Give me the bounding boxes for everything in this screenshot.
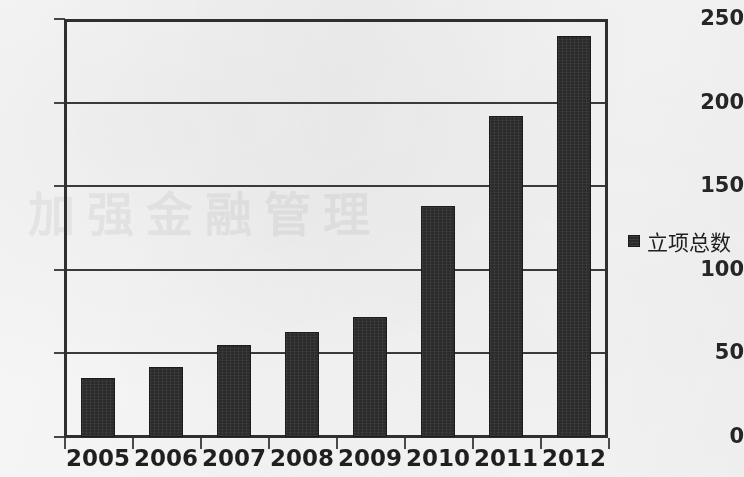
legend: 立项总数 — [628, 226, 731, 256]
x-axis-tick-label: 2007 — [198, 445, 270, 471]
bar — [557, 36, 591, 437]
y-axis-tick-label: 100 — [692, 257, 744, 281]
bar — [217, 345, 251, 437]
bar — [285, 332, 319, 437]
x-axis-tick-label: 2008 — [266, 445, 338, 471]
y-axis-tick-label: 200 — [692, 90, 744, 114]
y-axis-tick-label: 250 — [692, 6, 744, 30]
chart-page: 加强金融管理 050100150200250 20052006200720082… — [0, 0, 744, 477]
x-axis-tick-label: 2012 — [538, 445, 610, 471]
y-axis-tick-label: 50 — [692, 340, 744, 364]
x-axis-tick-mark — [64, 438, 66, 449]
bar — [353, 317, 387, 437]
x-axis-tick-mark — [268, 438, 270, 449]
legend-label: 立项总数 — [647, 226, 731, 256]
x-axis-tick-label: 2005 — [62, 445, 134, 471]
x-axis-tick-mark — [336, 438, 338, 449]
bar — [81, 378, 115, 437]
x-axis-tick-label: 2006 — [130, 445, 202, 471]
x-axis-tick-label: 2010 — [402, 445, 474, 471]
y-axis-tick-label: 150 — [692, 173, 744, 197]
plot-frame — [64, 19, 608, 438]
x-axis-tick-mark — [132, 438, 134, 449]
bar — [149, 367, 183, 437]
x-axis-tick-mark — [472, 438, 474, 449]
bar — [421, 206, 455, 437]
x-axis-tick-label: 2009 — [334, 445, 406, 471]
x-axis-tick-mark — [404, 438, 406, 449]
x-axis-tick-label: 2011 — [470, 445, 542, 471]
square-marker-icon — [628, 235, 640, 247]
x-axis-tick-mark — [608, 438, 610, 449]
x-axis-tick-mark — [540, 438, 542, 449]
x-axis-tick-mark — [200, 438, 202, 449]
y-axis-tick-label: 0 — [692, 424, 744, 448]
bar — [489, 116, 523, 437]
